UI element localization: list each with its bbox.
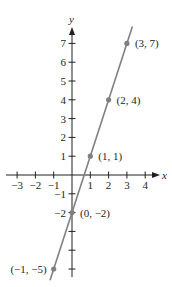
y-tick-label: −2 xyxy=(54,207,66,219)
y-tick-label: 4 xyxy=(61,94,67,106)
x-tick-label: 4 xyxy=(142,179,148,191)
point-label: (0, −2) xyxy=(80,207,110,220)
data-point xyxy=(124,41,129,46)
y-tick-label: 1 xyxy=(61,150,67,162)
x-tick-label: −2 xyxy=(30,179,42,191)
axes: xy xyxy=(6,13,167,277)
y-tick-label: 5 xyxy=(61,75,67,87)
point-label: (−1, −5) xyxy=(10,263,47,276)
x-tick-label: −3 xyxy=(11,179,23,191)
data-point xyxy=(69,210,74,215)
x-axis-label: x xyxy=(161,169,167,181)
y-axis-label: y xyxy=(68,13,74,25)
data-point xyxy=(88,154,93,159)
y-tick-label: 6 xyxy=(61,56,67,68)
y-tick-label: 7 xyxy=(61,37,67,49)
x-tick-label: 1 xyxy=(88,179,94,191)
data-point xyxy=(106,97,111,102)
x-tick-label: 2 xyxy=(106,179,112,191)
line-graph: xy −3−2−11234−2−11234567 (−1, −5)(0, −2)… xyxy=(0,0,172,287)
data-point xyxy=(51,266,56,271)
x-axis-arrow-icon xyxy=(152,172,160,178)
ticks: −3−2−11234−2−11234567 xyxy=(11,37,148,269)
point-label: (1, 1) xyxy=(98,150,122,163)
point-label: (2, 4) xyxy=(117,94,141,107)
x-tick-label: 3 xyxy=(124,179,130,191)
labels: (−1, −5)(0, −2)(1, 1)(2, 4)(3, 7) xyxy=(10,37,159,276)
y-tick-label: −1 xyxy=(54,188,66,200)
y-axis-arrow-icon xyxy=(69,27,75,35)
y-tick-label: 2 xyxy=(61,131,67,143)
y-tick-label: 3 xyxy=(61,113,67,125)
point-label: (3, 7) xyxy=(135,37,159,50)
